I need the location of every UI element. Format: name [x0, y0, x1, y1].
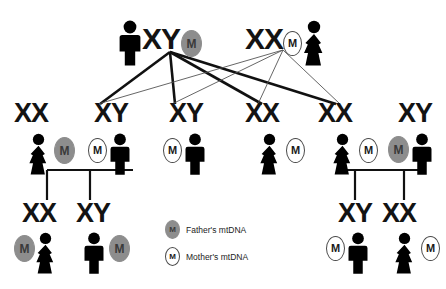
male-figure-icon: [118, 20, 142, 66]
genotype-label: XX: [14, 100, 48, 127]
mtdna-letter: M: [169, 225, 176, 234]
legend-label-father: Father's mtDNA: [186, 225, 246, 235]
legend-item-father: M Father's mtDNA: [165, 220, 246, 239]
father-mtdna-marker: M: [54, 137, 75, 164]
female-figure-icon: [392, 232, 417, 274]
female-figure-icon: [257, 133, 282, 175]
mtdna-pedigree-diagram: XY M XX M XX M XY M: [0, 0, 446, 289]
filled-oval-m-icon: M: [165, 220, 180, 239]
mtdna-letter: M: [93, 145, 102, 156]
mother-mtdna-marker: M: [421, 236, 440, 261]
mtdna-letter: M: [20, 243, 30, 255]
mother-mtdna-marker: M: [88, 138, 107, 163]
mtdna-letter: M: [394, 144, 404, 156]
mtdna-letter: M: [291, 145, 300, 156]
mother-mtdna-marker: M: [163, 138, 182, 163]
mother-mtdna-marker: M: [359, 138, 378, 163]
genotype-label: XY: [142, 24, 180, 54]
mother-mtdna-marker: M: [326, 236, 345, 261]
mtdna-letter: M: [364, 145, 373, 156]
mtdna-letter: M: [60, 145, 70, 157]
mother-mtdna-marker: M: [286, 138, 305, 163]
male-figure-icon: [410, 133, 434, 175]
father-mtdna-marker: M: [109, 235, 130, 262]
genotype-label: XY: [76, 200, 110, 227]
father-mtdna-marker: M: [388, 136, 409, 163]
outline-oval-m-icon: M: [165, 247, 180, 266]
female-figure-icon: [330, 133, 355, 175]
male-figure-icon: [346, 232, 370, 274]
male-figure-icon: [108, 133, 132, 175]
mtdna-letter: M: [288, 38, 297, 49]
mtdna-letter: M: [187, 38, 197, 50]
genotype-label: XY: [338, 200, 372, 227]
genotype-label: XX: [245, 24, 283, 54]
legend-label-mother: Mother's mtDNA: [186, 252, 248, 262]
mtdna-letter: M: [169, 252, 176, 261]
father-mtdna-marker: M: [181, 30, 202, 57]
female-figure-icon: [301, 20, 327, 66]
genotype-label: XY: [94, 100, 128, 127]
female-figure-icon: [26, 133, 51, 175]
female-figure-icon: [33, 232, 58, 274]
mtdna-letter: M: [168, 145, 177, 156]
father-mtdna-marker: M: [14, 235, 35, 262]
mother-mtdna-marker: M: [283, 31, 302, 56]
legend-item-mother: M Mother's mtDNA: [165, 247, 248, 266]
mtdna-letter: M: [115, 243, 125, 255]
male-figure-icon: [183, 133, 207, 175]
genotype-label: XX: [382, 200, 416, 227]
genotype-label: XY: [398, 100, 432, 127]
genotype-label: XY: [169, 100, 203, 127]
genotype-label: XX: [318, 100, 352, 127]
genotype-label: XX: [22, 200, 56, 227]
mtdna-letter: M: [426, 243, 435, 254]
male-figure-icon: [82, 232, 106, 274]
mtdna-letter: M: [331, 243, 340, 254]
genotype-label: XX: [245, 100, 279, 127]
